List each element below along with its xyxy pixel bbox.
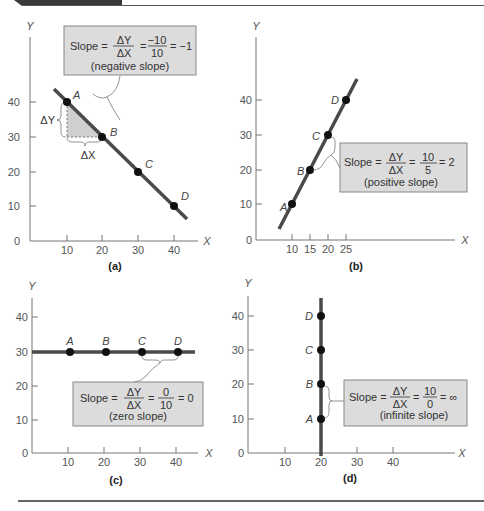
svg-text:20: 20: [232, 378, 244, 390]
svg-text:40: 40: [232, 310, 244, 322]
svg-text:40: 40: [240, 94, 252, 106]
y-ticks: 40 30 20 10 0: [16, 311, 38, 459]
svg-text:10: 10: [8, 200, 20, 212]
svg-text:15: 15: [304, 243, 316, 255]
svg-text:ΔX: ΔX: [117, 47, 132, 59]
svg-text:10: 10: [61, 244, 73, 256]
svg-text:A: A: [279, 201, 287, 213]
svg-text:20: 20: [240, 164, 252, 176]
y-ticks: 40 30 20 10 0: [240, 94, 262, 246]
delta-x-label: ΔX: [81, 149, 96, 161]
svg-text:20: 20: [16, 380, 28, 392]
callout-connector: [134, 356, 178, 382]
slope-annotation-box: Slope = ΔY ΔX = 10 0 = ∞ (infinite slope…: [344, 380, 467, 426]
svg-text:10: 10: [232, 413, 244, 425]
svg-text:40: 40: [16, 311, 28, 323]
panel-c: Y X 40 30 20 10 0 10 20 30 40: [16, 280, 214, 486]
svg-text:=: =: [148, 392, 154, 404]
demand-line: [54, 89, 187, 219]
svg-text:40: 40: [170, 456, 182, 468]
svg-text:ΔY: ΔY: [127, 386, 142, 398]
svg-text:C: C: [138, 335, 146, 347]
svg-text:10: 10: [422, 151, 434, 163]
slope-figure: Y X 40 30 20 10 0 10 20 30 40: [0, 0, 484, 511]
svg-text:40: 40: [8, 96, 20, 108]
svg-text:30: 30: [232, 344, 244, 356]
svg-text:A: A: [65, 335, 73, 347]
svg-text:= 2: = 2: [439, 156, 455, 168]
svg-text:=: =: [140, 40, 146, 52]
x-ticks: 10 20 30 40: [62, 447, 182, 468]
svg-text:D: D: [305, 310, 313, 322]
svg-text:ΔY: ΔY: [393, 385, 408, 397]
svg-text:30: 30: [132, 244, 144, 256]
svg-text:Slope =: Slope =: [70, 40, 108, 52]
panel-d: Y X 40 30 20 10 0 10 20 30 40: [232, 277, 467, 484]
svg-text:D: D: [331, 94, 339, 106]
x-ticks: 10 15 20 25: [286, 234, 352, 255]
panel-label: (d): [343, 472, 357, 484]
svg-text:30: 30: [134, 456, 146, 468]
panel-label: (c): [109, 474, 123, 486]
svg-text:(zero slope): (zero slope): [109, 410, 167, 422]
svg-text:40: 40: [387, 456, 399, 468]
svg-text:ΔY: ΔY: [117, 34, 132, 46]
svg-text:D: D: [174, 335, 182, 347]
delta-y-brace: [57, 102, 66, 137]
svg-text:C: C: [145, 158, 153, 170]
slope-annotation-box: Slope = ΔY ΔX = −10 10 = −1 (negative sl…: [64, 26, 196, 75]
svg-text:40: 40: [168, 244, 180, 256]
svg-text:30: 30: [240, 129, 252, 141]
svg-text:=: =: [413, 391, 419, 403]
x-ticks: 10 20 30 40: [61, 235, 180, 256]
svg-text:10: 10: [286, 243, 298, 255]
svg-text:0: 0: [163, 386, 169, 398]
y-axis-label: Y: [28, 280, 36, 292]
svg-text:D: D: [181, 190, 189, 202]
svg-text:5: 5: [425, 164, 431, 176]
header-rule: [14, 0, 484, 6]
svg-text:10: 10: [62, 456, 74, 468]
x-axis-label: X: [460, 234, 469, 246]
panel-a: Y X 40 30 20 10 0 10 20 30 40: [8, 20, 212, 272]
svg-text:20: 20: [8, 166, 20, 178]
svg-text:0: 0: [14, 235, 20, 247]
svg-text:B: B: [110, 126, 117, 138]
svg-text:Slope =: Slope =: [349, 391, 387, 403]
svg-text:B: B: [306, 378, 313, 390]
svg-text:30: 30: [351, 456, 363, 468]
svg-text:ΔX: ΔX: [389, 164, 404, 176]
svg-text:(negative slope): (negative slope): [91, 60, 169, 72]
slope-annotation-box: Slope = ΔY ΔX = 10 5 = 2 (positive slope…: [340, 143, 467, 192]
svg-text:−10: −10: [148, 34, 167, 46]
svg-text:B: B: [297, 165, 304, 177]
svg-text:30: 30: [8, 131, 20, 143]
x-axis-label: X: [202, 235, 211, 247]
svg-text:10: 10: [16, 414, 28, 426]
panel-label: (a): [108, 260, 122, 272]
svg-text:10: 10: [279, 456, 291, 468]
svg-text:= ∞: = ∞: [440, 391, 457, 403]
svg-text:B: B: [102, 335, 109, 347]
svg-text:10: 10: [240, 198, 252, 210]
svg-text:A: A: [305, 413, 313, 425]
svg-text:25: 25: [340, 243, 352, 255]
y-ticks: 40 30 20 10 0: [8, 96, 36, 247]
svg-text:Slope =: Slope =: [344, 156, 382, 168]
x-ticks: 10 20 30 40: [279, 447, 399, 468]
svg-text:A: A: [72, 89, 80, 101]
svg-text:20: 20: [315, 456, 327, 468]
y-ticks: 40 30 20 10 0: [232, 310, 254, 459]
svg-text:= 0: = 0: [178, 392, 194, 404]
x-axis-label: X: [457, 447, 466, 459]
delta-x-brace: [67, 138, 102, 146]
svg-text:0: 0: [246, 234, 252, 246]
svg-text:10: 10: [424, 385, 436, 397]
panel-label: (b): [349, 260, 363, 272]
callout-connector: [93, 76, 120, 120]
y-axis-label: Y: [252, 20, 260, 32]
svg-text:=: =: [409, 156, 415, 168]
svg-text:30: 30: [16, 346, 28, 358]
svg-text:C: C: [312, 130, 320, 142]
svg-text:0: 0: [22, 447, 28, 459]
